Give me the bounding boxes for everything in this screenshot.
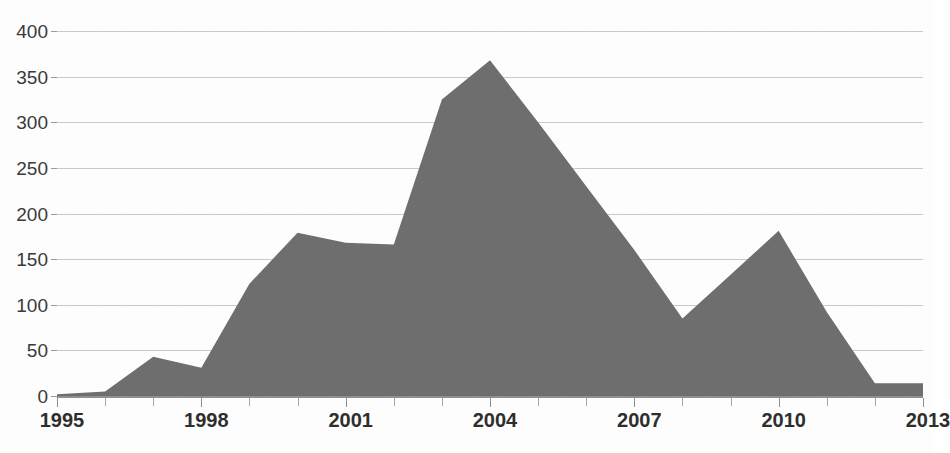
- x-tick-mark-minor: [249, 398, 250, 406]
- x-tick-label: 1998: [184, 410, 229, 430]
- y-tick-label: 0: [37, 387, 48, 406]
- x-tick-label: 2010: [761, 410, 806, 430]
- x-tick-mark-minor: [442, 398, 443, 406]
- x-tick-mark-minor: [731, 398, 732, 406]
- x-tick-mark-major: [779, 398, 780, 407]
- x-tick-label: 2013: [906, 410, 950, 430]
- area-series: [57, 31, 923, 396]
- y-tick-label: 200: [16, 204, 48, 223]
- x-tick-mark-minor: [153, 398, 154, 406]
- plot-area: [57, 31, 923, 396]
- x-tick-mark-minor: [298, 398, 299, 406]
- x-tick-mark-minor: [875, 398, 876, 406]
- chart-title: [0, 0, 933, 2]
- area-polygon: [57, 60, 923, 396]
- x-tick-label: 2007: [617, 410, 662, 430]
- y-axis: 400350300250200150100500: [0, 31, 48, 396]
- y-tick-label: 150: [16, 250, 48, 269]
- x-tick-mark-minor: [827, 398, 828, 406]
- x-tick-mark-major: [490, 398, 491, 407]
- x-axis-ticks: [57, 398, 923, 407]
- x-tick-label: 2004: [473, 410, 518, 430]
- x-tick-mark-major: [923, 398, 924, 407]
- y-tick-label: 250: [16, 158, 48, 177]
- y-tick-label: 100: [16, 295, 48, 314]
- y-tick-label: 300: [16, 113, 48, 132]
- x-tick-mark-minor: [105, 398, 106, 406]
- x-axis: 1995199820012004200720102013: [0, 410, 933, 440]
- x-tick-mark-major: [57, 398, 58, 407]
- y-tick-label: 350: [16, 67, 48, 86]
- y-tick-label: 400: [16, 22, 48, 41]
- x-tick-mark-major: [634, 398, 635, 407]
- x-tick-mark-minor: [394, 398, 395, 406]
- y-tick-label: 50: [27, 341, 48, 360]
- x-tick-mark-minor: [682, 398, 683, 406]
- x-tick-mark-minor: [538, 398, 539, 406]
- x-tick-label: 1995: [40, 410, 85, 430]
- x-tick-label: 2001: [328, 410, 373, 430]
- x-tick-mark-major: [346, 398, 347, 407]
- x-tick-mark-minor: [586, 398, 587, 406]
- x-tick-mark-major: [201, 398, 202, 407]
